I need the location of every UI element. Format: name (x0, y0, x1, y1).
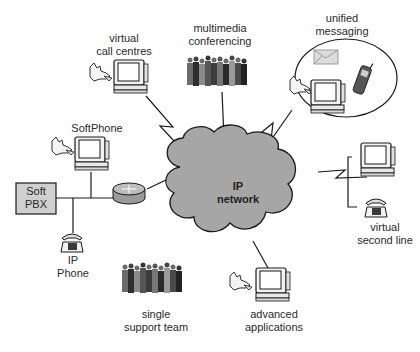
label-ip-phone: IP Phone (52, 254, 94, 280)
router-icon (113, 183, 145, 204)
people-group-icon (187, 56, 247, 87)
people-group-icon (122, 263, 182, 294)
link-right-bracket (348, 157, 357, 207)
envelope-icon (314, 50, 338, 64)
link-advanced-applications (253, 241, 268, 268)
hand-icon (90, 63, 112, 81)
desk-phone-icon (365, 199, 387, 217)
computer-icon (114, 60, 148, 93)
hand-icon (52, 137, 74, 155)
label-advanced-applications: advanced applications (236, 308, 312, 334)
computer-icon (311, 80, 345, 113)
label-virtual-call-centres: virtual call centres (92, 32, 156, 58)
computer-icon (75, 137, 109, 170)
label-single-support-team: single support team (116, 308, 196, 334)
link-router-cloud (147, 180, 166, 189)
computer-icon (361, 143, 395, 176)
hand-icon (230, 272, 252, 290)
label-multimedia-conferencing: multimedia conferencing (180, 22, 260, 48)
label-softphone: SoftPhone (62, 122, 132, 135)
ip-network-diagram (0, 0, 420, 352)
label-soft-pbx: Soft PBX (16, 185, 56, 211)
link-virtual-second-line (318, 170, 367, 178)
computer-icon (256, 268, 290, 301)
label-ip-network: IP network (208, 180, 268, 206)
desk-phone-icon (61, 234, 83, 252)
ip-network-cloud (166, 125, 296, 232)
label-unified-messaging: unified messaging (306, 12, 378, 38)
label-virtual-second-line: virtual second line (350, 221, 420, 247)
unified-messaging-bubble (295, 39, 397, 117)
